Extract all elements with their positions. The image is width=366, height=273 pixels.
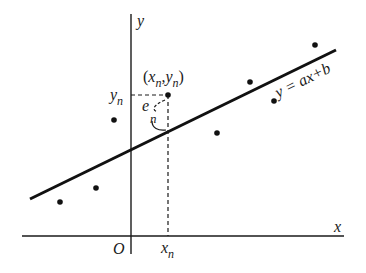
origin-label: O [113,240,125,257]
data-point [111,117,117,123]
data-point [271,98,277,104]
y-axis-label: y [135,12,145,30]
regression-diagram: y x O xn yn (xn,yn) e n y = ax+b [0,0,366,273]
residual-subscript: n [150,111,157,126]
data-point [247,79,253,85]
yn-axis-label: yn [108,86,123,108]
x-axis-label: x [333,218,341,235]
data-point-highlighted [165,92,171,98]
data-point [312,42,318,48]
data-point [57,199,63,205]
residual-label: e [142,97,149,114]
point-coordinate-label: (xn,yn) [143,68,184,90]
data-point [93,185,99,191]
data-point [214,130,220,136]
xn-axis-label: xn [160,239,174,261]
